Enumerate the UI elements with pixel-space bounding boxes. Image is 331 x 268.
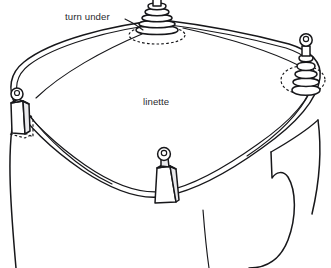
right-bobbin-ring-4 bbox=[293, 78, 319, 86]
right-bobbin-neck bbox=[302, 46, 310, 56]
form-fold-flap bbox=[249, 152, 294, 268]
top-bobbin-stem bbox=[153, 0, 161, 6]
right-bobbin-ring-3 bbox=[295, 70, 317, 78]
left-box-dashed-shadow-2 bbox=[10, 134, 33, 138]
label-turn-under: turn under bbox=[65, 11, 110, 22]
diagram-canvas: turn under linette bbox=[0, 0, 331, 268]
label-linette: linette bbox=[143, 96, 169, 107]
linette-draping-illustration: turn under linette bbox=[0, 0, 331, 268]
right-bobbin-ring-eyelet bbox=[300, 34, 312, 46]
form-right-silhouette bbox=[312, 120, 320, 214]
form-seam-left bbox=[203, 210, 209, 268]
form-left-silhouette bbox=[10, 128, 16, 268]
left-box-ring-eyelet bbox=[11, 88, 23, 100]
bottom-box-ring-eyelet bbox=[158, 148, 171, 161]
left-box-side-face bbox=[23, 101, 30, 134]
right-bobbin-ring-2 bbox=[297, 62, 315, 70]
